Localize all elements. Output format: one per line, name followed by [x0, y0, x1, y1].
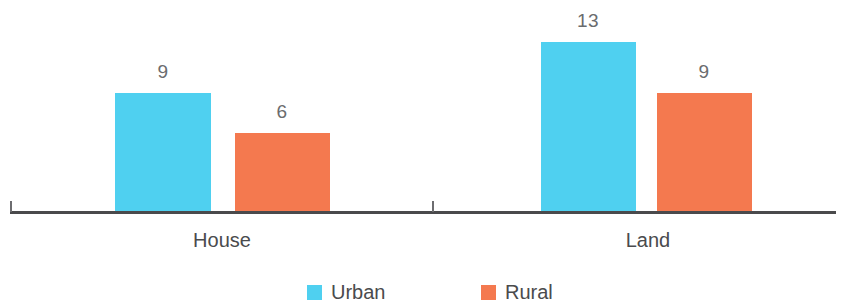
x-axis-line: [10, 211, 836, 214]
bar-house-urban[interactable]: [115, 93, 211, 212]
legend-swatch-rural-icon: [481, 285, 496, 300]
bar-land-rural[interactable]: [657, 93, 752, 212]
legend-item-rural[interactable]: Rural: [481, 282, 553, 302]
legend-item-urban[interactable]: Urban: [307, 282, 385, 302]
legend-label-urban: Urban: [331, 282, 385, 302]
category-label-land: Land: [588, 230, 708, 250]
value-label-house-rural: 6: [252, 102, 312, 121]
chart-legend: Urban Rural: [0, 278, 847, 304]
bar-land-urban[interactable]: [541, 42, 636, 212]
bar-chart: 9 6 13 9 House Land Urban Rural: [0, 0, 847, 304]
x-axis-tick-start: [10, 201, 12, 212]
bar-house-rural[interactable]: [235, 133, 330, 212]
value-label-land-rural: 9: [674, 62, 734, 81]
legend-label-rural: Rural: [505, 282, 553, 302]
category-label-house: House: [162, 230, 282, 250]
value-label-house-urban: 9: [133, 62, 193, 81]
legend-swatch-urban-icon: [307, 285, 322, 300]
plot-area: 9 6 13 9 House Land: [0, 0, 847, 304]
value-label-land-urban: 13: [558, 11, 618, 30]
x-axis-tick-middle: [432, 201, 434, 212]
